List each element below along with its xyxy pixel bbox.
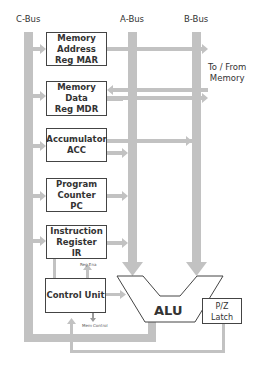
- pc-register: Program Counter PC: [46, 178, 107, 212]
- mar-register: Memory Address Reg MAR: [46, 32, 107, 66]
- a-bus-arrowhead: [122, 262, 143, 276]
- pz-latch: P/Z Latch: [202, 298, 242, 324]
- memory-label: To / From Memory: [208, 62, 246, 84]
- b-bus-label: B-Bus: [184, 14, 208, 24]
- c-bus-line: [24, 32, 33, 342]
- mdr-register: Memory Data Reg MDR: [46, 81, 107, 116]
- reg-enable-label: Reg Ena: [80, 262, 96, 267]
- mem-control-label: Mem Control: [82, 323, 108, 328]
- alu-label: ALU: [154, 303, 182, 318]
- c-bus-label: C-Bus: [16, 14, 40, 24]
- control-unit: Control Unit: [45, 278, 106, 313]
- b-bus-arrowhead: [186, 262, 207, 276]
- a-bus-line: [128, 32, 137, 270]
- ir-register: Instruction Register IR: [46, 225, 107, 259]
- b-bus-line: [192, 32, 201, 270]
- c-bus-bottom: [24, 334, 156, 342]
- a-bus-label: A-Bus: [120, 14, 144, 24]
- acc-register: Accumulator ACC: [46, 128, 107, 162]
